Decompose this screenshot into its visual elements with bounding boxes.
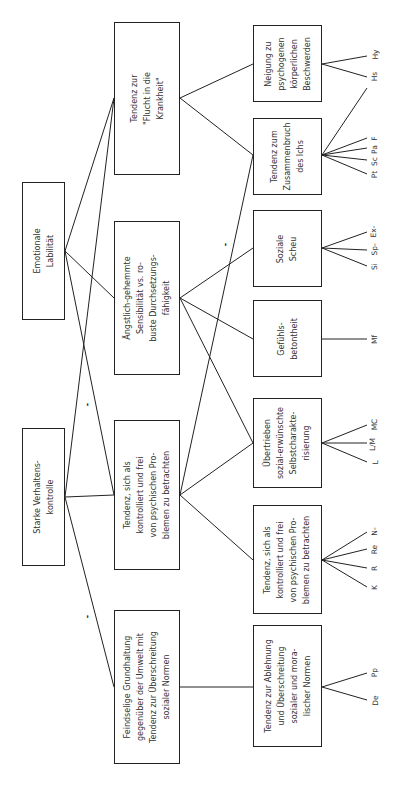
node-label: Tendenz zur Ablehnung und Überschreitung…	[262, 639, 314, 733]
scale-label-hs: Hs	[370, 72, 379, 82]
node-label: Feindselige Grundhaltung gegenüber der U…	[121, 631, 173, 743]
node-label: Übertrieben sozial-erwünschte Selbstchar…	[262, 407, 314, 479]
scale-label-mc: MC	[370, 419, 379, 431]
node-label: Gefühls- betontheit	[275, 318, 301, 360]
negative-mark: -	[221, 243, 230, 246]
scale-label-n: N-	[370, 527, 379, 535]
scale-label-pa: Pa	[370, 145, 379, 154]
node-aengstlich-gehemmte-sensibilitaet: Ängstlich-gehemmte Sensibilität vs. ro- …	[114, 221, 180, 375]
scale-label-l-m: L/M	[368, 438, 377, 451]
node-feindselige-grundhaltung: Feindselige Grundhaltung gegenüber der U…	[114, 610, 180, 764]
scale-label-r: R	[370, 566, 379, 571]
scale-label-hy: Hy	[371, 49, 380, 59]
node-flucht-in-die-krankheit: Tendenz zur "Flucht in die Krankheit"	[114, 22, 180, 175]
scale-label-f: F	[370, 136, 379, 140]
node-label: Tendenz, sich als kontrolliert und frei …	[262, 515, 314, 603]
node-soziale-scheu: Soziale Scheu	[253, 210, 322, 287]
scale-label-mf: Mf	[370, 335, 379, 344]
node-label: Tendenz zum Zusammenbruch des Ichs	[268, 122, 307, 190]
node-label: Neigung zu psychogenen körperlichen Besc…	[261, 37, 313, 91]
node-ablehnung-normen: Tendenz zur Ablehnung und Überschreitung…	[253, 625, 322, 747]
node-label: Ängstlich-gehemmte Sensibilität vs. ro- …	[121, 254, 173, 341]
node-label: Emotionale Labilität	[31, 228, 57, 273]
node-starke-verhaltenskontrolle: Starke Verhaltens- kontrolle	[22, 428, 65, 566]
scale-label-pt: Pt	[370, 171, 379, 178]
scale-label-sc: Sc	[370, 157, 379, 166]
node-label: Starke Verhaltens- kontrolle	[31, 460, 57, 534]
node-label: Soziale Scheu	[274, 234, 300, 262]
node-neigung-psychogene-beschwerden: Neigung zu psychogenen körperlichen Besc…	[253, 25, 322, 102]
scale-label-re: Re	[370, 545, 379, 555]
node-tendenz-kontrolliert: Tendenz, sich als kontrolliert und frei …	[114, 420, 180, 570]
node-tendenz-kontrolliert-2: Tendenz, sich als kontrolliert und frei …	[253, 505, 322, 614]
node-label: Tendenz, sich als kontrolliert und frei …	[121, 451, 173, 539]
connector-lines	[0, 0, 398, 789]
scale-label-si: Si	[370, 263, 379, 270]
node-uebertrieben-sozial-erwuenscht: Übertrieben sozial-erwünschte Selbstchar…	[253, 398, 322, 488]
node-emotionale-labilitaet: Emotionale Labilität	[22, 182, 65, 320]
scale-label-l: L	[371, 460, 380, 464]
node-gefuehlsbetontheit: Gefühls- betontheit	[253, 300, 322, 377]
negative-mark: -	[83, 615, 92, 618]
scale-label-ex: Ex-	[369, 226, 378, 238]
scale-label-pp: Pp	[370, 668, 379, 677]
scale-label-de: De	[371, 695, 380, 705]
node-label: Tendenz zur "Flucht in die Krankheit"	[128, 72, 167, 125]
scale-label-k: K	[370, 585, 379, 590]
scale-label-sp: Sp-	[370, 243, 379, 255]
node-zusammenbruch-des-ichs: Tendenz zum Zusammenbruch des Ichs	[253, 118, 322, 195]
negative-mark: -	[83, 403, 92, 406]
